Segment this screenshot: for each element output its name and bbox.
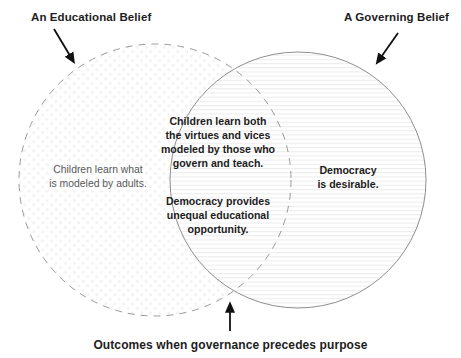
- label-an-educational-belief: An Educational Belief: [31, 11, 151, 23]
- left-circle-only-text: Children learn what is modeled by adults…: [38, 163, 158, 191]
- right-circle-only-text: Democracy is desirable.: [298, 163, 398, 191]
- overlap-text-paragraph-1: Children learn both the virtues and vice…: [155, 114, 281, 170]
- label-a-governing-belief: A Governing Belief: [344, 11, 449, 23]
- arrow-to-left-circle: [54, 29, 72, 59]
- venn-diagram-canvas: An Educational Belief A Governing Belief…: [0, 0, 461, 358]
- overlap-text-paragraph-2: Democracy provides unequal educational o…: [155, 194, 281, 236]
- diagram-caption: Outcomes when governance precedes purpos…: [0, 338, 461, 352]
- arrow-to-right-circle: [379, 33, 398, 60]
